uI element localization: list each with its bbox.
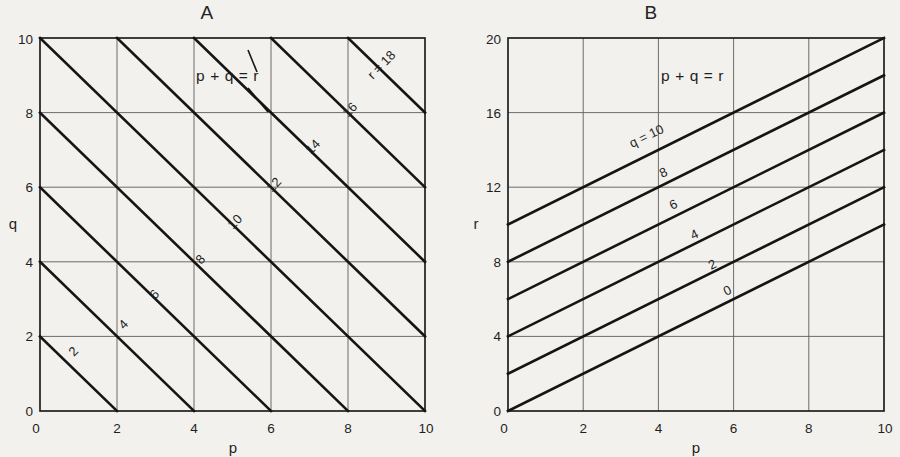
curve-label-r6: 6 [146, 286, 162, 302]
y-tick-8: 8 [493, 255, 501, 270]
panel-a-ylabel: q [9, 215, 17, 232]
panel-b-curve-labels: 0 2 4 6 8 q = 10 [627, 121, 734, 298]
x-tick-4: 4 [190, 421, 198, 436]
curve-label-r4: 4 [115, 316, 131, 332]
y-tick-6: 6 [25, 180, 33, 195]
x-tick-8: 8 [805, 421, 813, 436]
y-tick-4: 4 [493, 329, 501, 344]
curve-label-q4: 4 [688, 226, 701, 243]
curve-label-r18: r = 18 [364, 47, 398, 82]
curve-label-r10: 10 [224, 211, 245, 232]
panel-b-equation-label: p + q = r [661, 67, 724, 84]
x-tick-6: 6 [267, 421, 275, 436]
x-tick-8: 8 [344, 421, 352, 436]
curve-label-r8: 8 [192, 251, 208, 267]
panel-a-curve-labels: 2 4 6 8 10 12 14 16 r = 18 [65, 47, 398, 359]
panel-b: B [450, 0, 900, 457]
panel-a-equation-label: p + q = r [196, 67, 259, 84]
curve-label-q6: 6 [667, 196, 680, 213]
x-tick-0: 0 [500, 421, 508, 436]
panel-a: A [0, 0, 450, 457]
x-tick-2: 2 [579, 421, 587, 436]
panel-b-frame [508, 38, 884, 411]
y-tick-0: 0 [493, 404, 501, 419]
contour-q0 [508, 225, 884, 412]
panel-b-contour-lines [508, 38, 884, 411]
y-tick-12: 12 [486, 180, 501, 195]
y-tick-20: 20 [486, 32, 501, 47]
panel-a-equation-leader-bottom [248, 88, 268, 112]
x-tick-6: 6 [730, 421, 738, 436]
curve-label-r2: 2 [65, 343, 81, 359]
panel-b-plot: p + q = r 0 2 4 6 8 q = 10 0 4 8 12 16 2… [450, 0, 900, 457]
panel-a-plot: p + q = r 2 4 6 8 10 12 14 16 r = 18 0 2… [0, 0, 450, 457]
contour-r2 [40, 336, 117, 411]
y-tick-0: 0 [25, 404, 33, 419]
contour-q2 [508, 187, 884, 374]
curve-label-r12: 12 [263, 174, 284, 195]
panel-b-y-ticks: 0 4 8 12 16 20 [486, 32, 502, 419]
x-tick-4: 4 [655, 421, 663, 436]
curve-label-r16: 16 [339, 99, 360, 120]
panel-a-x-ticks: 0 2 4 6 8 10 [32, 421, 433, 436]
y-tick-16: 16 [486, 106, 501, 121]
curve-label-r14: 14 [302, 136, 323, 157]
y-tick-2: 2 [25, 329, 33, 344]
x-tick-10: 10 [418, 421, 433, 436]
x-tick-0: 0 [32, 421, 40, 436]
x-tick-10: 10 [877, 421, 892, 436]
panel-a-xlabel: p [229, 439, 237, 456]
contour-q4 [508, 150, 884, 337]
contour-q10 [508, 38, 884, 225]
contour-q6 [508, 113, 884, 300]
panel-a-y-ticks: 0 2 4 6 8 10 [18, 32, 34, 419]
y-tick-4: 4 [25, 255, 33, 270]
curve-label-q10: q = 10 [627, 121, 666, 150]
y-tick-8: 8 [25, 106, 33, 121]
curve-label-q2: 2 [706, 256, 719, 273]
figure-root: A [0, 0, 900, 457]
x-tick-2: 2 [113, 421, 121, 436]
curve-label-q0: 0 [721, 282, 734, 299]
panel-b-xlabel: p [692, 439, 700, 456]
y-tick-10: 10 [18, 32, 33, 47]
panel-b-gridlines [508, 38, 884, 411]
panel-b-x-ticks: 0 2 4 6 8 10 [500, 421, 892, 436]
panel-b-ylabel: r [474, 215, 479, 232]
